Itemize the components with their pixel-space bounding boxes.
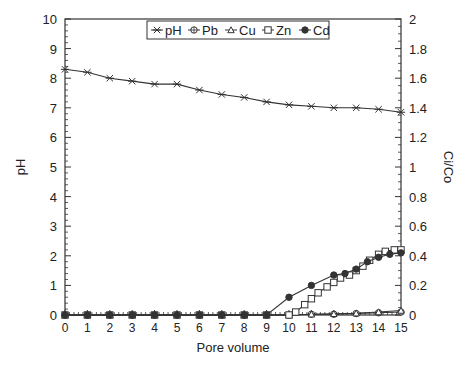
legend-label: Cu [239, 23, 256, 38]
plot-frame [65, 19, 401, 315]
y2-tick-label: 2 [409, 12, 416, 27]
x-tick-label: 12 [327, 321, 341, 335]
y-tick-label: 1 [50, 278, 57, 293]
y-tick-label: 2 [50, 249, 57, 264]
y2-tick-label: 0.6 [409, 219, 427, 234]
x-tick-label: 7 [218, 321, 225, 335]
legend-label: Cd [313, 23, 330, 38]
x-tick-label: 3 [129, 321, 136, 335]
series-ph [61, 66, 405, 115]
y2-tick-label: 0.2 [409, 278, 427, 293]
y-tick-label: 9 [50, 42, 57, 57]
y-tick-label: 6 [50, 130, 57, 145]
x-tick-label: 13 [350, 321, 364, 335]
y2-tick-label: 0 [409, 308, 416, 323]
y-tick-label: 3 [50, 219, 57, 234]
y2-axis-label: Ci/Co [441, 151, 456, 184]
x-tick-label: 9 [263, 321, 270, 335]
y2-tick-label: 1 [409, 160, 416, 175]
x-tick-label: 4 [151, 321, 158, 335]
x-tick-label: 8 [241, 321, 248, 335]
x-tick-label: 11 [305, 321, 318, 335]
plot-area: 012345678910111213141501234567891000.20.… [43, 12, 428, 335]
y-axis-label: pH [13, 159, 28, 176]
legend-label: Zn [276, 23, 291, 38]
legend-label: Pb [202, 23, 218, 38]
y2-tick-label: 1.2 [409, 130, 427, 145]
chart: 012345678910111213141501234567891000.20.… [0, 0, 468, 365]
x-tick-label: 2 [106, 321, 113, 335]
x-tick-label: 1 [84, 321, 91, 335]
y2-tick-label: 0.8 [409, 190, 427, 205]
y-tick-label: 5 [50, 160, 57, 175]
y2-tick-label: 1.6 [409, 71, 427, 86]
x-tick-label: 10 [282, 321, 296, 335]
series-zn [62, 247, 404, 319]
series-cd [62, 250, 404, 319]
y2-tick-label: 1.8 [409, 42, 427, 57]
y-tick-label: 7 [50, 101, 57, 116]
x-tick-label: 14 [372, 321, 386, 335]
x-tick-label: 6 [196, 321, 203, 335]
legend: pHPbCuZnCd [147, 21, 330, 39]
x-tick-label: 15 [394, 321, 408, 335]
y-tick-label: 0 [50, 308, 57, 323]
y-tick-label: 8 [50, 71, 57, 86]
x-tick-label: 0 [62, 321, 69, 335]
x-axis-label: Pore volume [197, 340, 270, 355]
y2-tick-label: 0.4 [409, 249, 427, 264]
y2-tick-label: 1.4 [409, 101, 427, 116]
legend-label: pH [165, 23, 182, 38]
y-tick-label: 4 [50, 190, 57, 205]
y-tick-label: 10 [43, 12, 57, 27]
x-tick-label: 5 [174, 321, 181, 335]
